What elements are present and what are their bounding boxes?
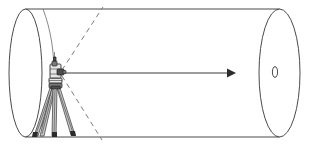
field-of-view-upper-line xyxy=(62,7,103,70)
tripod-head-clamp xyxy=(51,86,60,89)
figure-root: Surveying instrument on tripod sighting … xyxy=(0,0,312,147)
instrument-standard xyxy=(52,61,57,66)
tripod-foot-center xyxy=(52,132,57,137)
field-of-view-lower-line xyxy=(62,76,102,140)
arrowhead-icon xyxy=(227,69,236,78)
diagram-canvas xyxy=(0,0,312,147)
tripod-foot-right xyxy=(70,131,76,136)
cylinder-far-end-ellipse xyxy=(259,9,300,137)
instrument-sight-vane xyxy=(54,57,57,61)
tripod-foot-left xyxy=(32,132,38,137)
sight-line-arrow xyxy=(64,69,236,78)
cylinder-near-end-ellipse xyxy=(9,9,42,137)
instrument-objective-lens xyxy=(63,71,66,74)
target-hole-icon xyxy=(272,67,277,78)
tripod-leg-right-detail xyxy=(59,90,74,133)
